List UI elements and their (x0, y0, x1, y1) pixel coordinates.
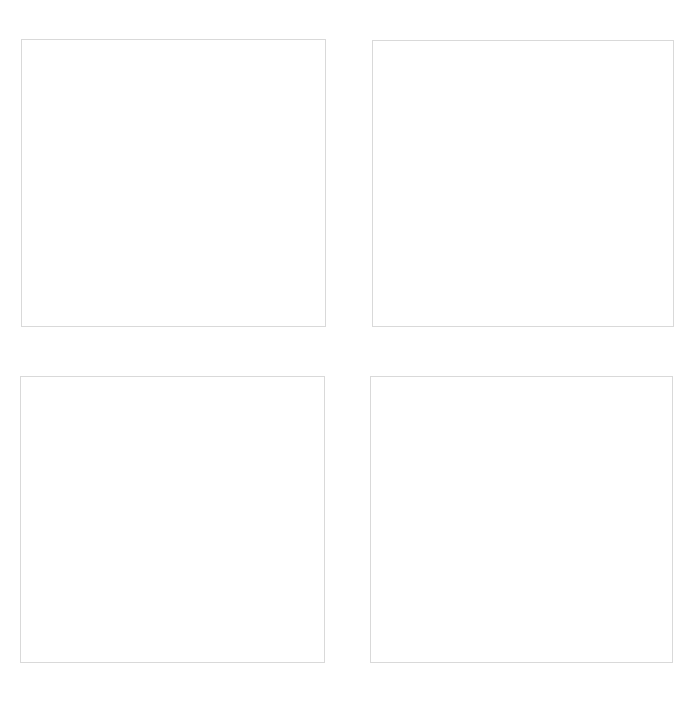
panel-bottom-right (370, 376, 673, 663)
panel-top-right (372, 40, 674, 327)
panel-top-left (21, 39, 326, 327)
panel-bottom-left (20, 376, 325, 663)
